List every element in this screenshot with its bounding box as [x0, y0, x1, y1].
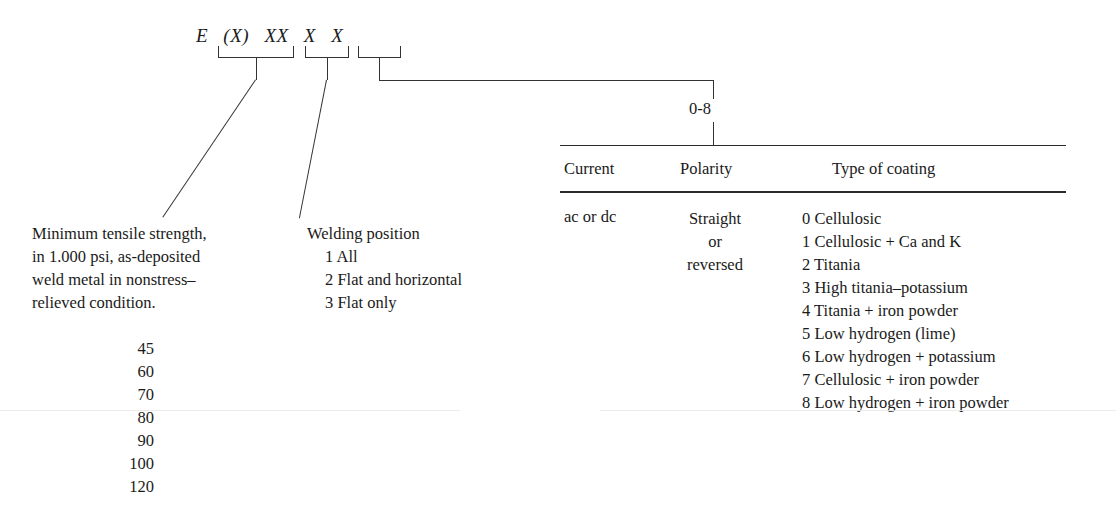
tensile-desc-line-4: relieved condition.: [32, 291, 242, 314]
tensile-desc-line-1: Minimum tensile strength,: [32, 222, 242, 245]
table-cell-polarity: Straight or reversed: [660, 207, 770, 276]
coating-connector-horiz: [379, 80, 714, 81]
scan-artifact-line: [0, 410, 460, 411]
bracket1-right-tick: [293, 46, 294, 58]
coating-connector-down-a: [713, 80, 714, 99]
coating-range-label: 0-8: [689, 99, 711, 119]
table-body-row: ac or dc Straight or reversed 0 Cellulos…: [560, 193, 1066, 433]
tensile-value: 120: [112, 475, 154, 498]
welding-position-block: Welding position 1 All 2 Flat and horizo…: [307, 222, 462, 314]
polarity-line: Straight: [660, 207, 770, 230]
coating-type-item: 4 Titania + iron powder: [802, 299, 1009, 322]
code-token-x-optional: (X): [223, 25, 249, 46]
tensile-value: 100: [112, 452, 154, 475]
table-header-row: Current Polarity Type of coating: [560, 146, 1066, 191]
bracket2-leader-line: [299, 80, 327, 219]
polarity-line: or: [660, 230, 770, 253]
coating-type-item: 2 Titania: [802, 253, 1009, 276]
code-token-x-coating: X: [331, 25, 343, 46]
coating-connector-down-b: [713, 122, 714, 146]
bracket1-stem: [256, 57, 257, 80]
welding-position-title: Welding position: [307, 222, 462, 245]
tensile-strength-values: 45 60 70 80 90 100 120: [112, 337, 154, 498]
tensile-strength-description: Minimum tensile strength, in 1.000 psi, …: [32, 222, 242, 314]
coating-table: Current Polarity Type of coating ac or d…: [560, 145, 1066, 433]
coating-type-item: 1 Cellulosic + Ca and K: [802, 230, 1009, 253]
tensile-value: 45: [112, 337, 154, 360]
tensile-value: 60: [112, 360, 154, 383]
table-header-current: Current: [564, 159, 614, 179]
tensile-desc-line-2: in 1.000 psi, as-deposited: [32, 245, 242, 268]
welding-position-item: 1 All: [307, 245, 462, 268]
diagram-page: E (X) XX X X 0-8 Minimum tensile strengt…: [0, 0, 1116, 508]
bracket3-stem: [379, 57, 380, 80]
welding-position-item: 3 Flat only: [307, 291, 462, 314]
code-token-x-position: X: [304, 25, 316, 46]
electrode-code-notation: E (X) XX X X: [196, 25, 343, 47]
tensile-value: 90: [112, 429, 154, 452]
table-header-polarity: Polarity: [680, 159, 732, 179]
bracket3-right-tick: [400, 46, 401, 58]
coating-type-item: 5 Low hydrogen (lime): [802, 322, 1009, 345]
table-header-type-of-coating: Type of coating: [832, 159, 935, 179]
tensile-desc-line-3: weld metal in nonstress–: [32, 268, 242, 291]
welding-position-item: 2 Flat and horizontal: [307, 268, 462, 291]
coating-type-item: 0 Cellulosic: [802, 207, 1009, 230]
table-cell-coating-types: 0 Cellulosic 1 Cellulosic + Ca and K 2 T…: [802, 207, 1009, 414]
coating-type-item: 7 Cellulosic + iron powder: [802, 368, 1009, 391]
tensile-value: 70: [112, 383, 154, 406]
polarity-line: reversed: [660, 253, 770, 276]
coating-type-item: 3 High titania–potassium: [802, 276, 1009, 299]
bracket2-stem: [327, 57, 328, 80]
table-cell-current: ac or dc: [564, 207, 616, 227]
code-token-e: E: [196, 25, 208, 46]
coating-type-item: 6 Low hydrogen + potassium: [802, 345, 1009, 368]
scan-artifact-line: [600, 410, 1116, 411]
bracket2-right-tick: [348, 46, 349, 58]
code-token-xx: XX: [264, 25, 288, 46]
bracket1-leader-line: [162, 79, 256, 217]
